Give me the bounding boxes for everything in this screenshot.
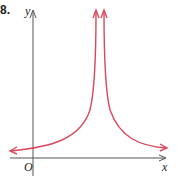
graph (0, 0, 178, 182)
x-axis-label: x (162, 160, 167, 175)
curve (10, 10, 167, 154)
y-axis (30, 10, 36, 176)
y-axis-label: y (25, 4, 30, 19)
origin-label: O (24, 160, 33, 175)
